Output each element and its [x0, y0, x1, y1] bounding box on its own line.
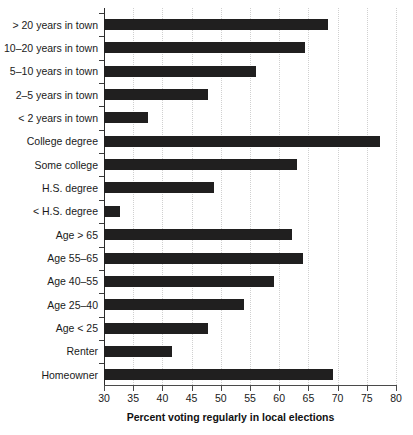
- bar: [104, 19, 328, 30]
- bar: [104, 276, 274, 287]
- x-axis-tick: [192, 386, 193, 391]
- category-label: Age 40–55: [0, 276, 98, 287]
- y-axis-tick: [99, 363, 104, 364]
- category-label: College degree: [0, 136, 98, 147]
- bars-layer: [104, 8, 396, 385]
- category-label: Some college: [0, 160, 98, 171]
- x-axis-tick: [221, 386, 222, 391]
- bar: [104, 206, 120, 217]
- y-axis-tick: [99, 293, 104, 294]
- y-axis-tick: [99, 130, 104, 131]
- x-axis-tick-label: 30: [89, 392, 119, 404]
- category-label: Age 25–40: [0, 300, 98, 311]
- category-axis-labels: > 20 years in town10–20 years in town5–1…: [0, 8, 98, 385]
- category-label: 5–10 years in town: [0, 66, 98, 77]
- bar: [104, 229, 292, 240]
- x-axis-title: Percent voting regularly in local electi…: [0, 411, 413, 423]
- y-axis-tick: [99, 317, 104, 318]
- x-axis-tick-label: 75: [352, 392, 382, 404]
- category-label: < H.S. degree: [0, 206, 98, 217]
- bar: [104, 42, 305, 53]
- bar: [104, 346, 172, 357]
- y-axis-tick: [99, 106, 104, 107]
- category-label: Age 55–65: [0, 253, 98, 264]
- x-axis-tick: [396, 386, 397, 391]
- gridline: [396, 8, 398, 385]
- x-axis-tick: [308, 386, 309, 391]
- x-axis-tick: [367, 386, 368, 391]
- category-label: H.S. degree: [0, 183, 98, 194]
- category-label: 2–5 years in town: [0, 90, 98, 101]
- x-axis-tick: [133, 386, 134, 391]
- x-axis-tick: [104, 386, 105, 391]
- y-axis-tick: [99, 340, 104, 341]
- y-axis-tick: [99, 83, 104, 84]
- category-label: Age > 65: [0, 230, 98, 241]
- category-label: Age < 25: [0, 323, 98, 334]
- bar: [104, 136, 380, 147]
- bar: [104, 66, 256, 77]
- category-label: Renter: [0, 346, 98, 357]
- x-axis-tick-label: 65: [293, 392, 323, 404]
- x-axis-tick: [250, 386, 251, 391]
- plot-area: [104, 8, 396, 385]
- y-axis-tick: [99, 200, 104, 201]
- bar: [104, 253, 303, 264]
- y-axis-tick: [99, 247, 104, 248]
- x-axis-tick-label: 35: [118, 392, 148, 404]
- x-axis-tick-label: 80: [381, 392, 411, 404]
- x-axis-tick: [338, 386, 339, 391]
- x-axis-tick: [279, 386, 280, 391]
- x-axis-tick-label: 60: [264, 392, 294, 404]
- y-axis-tick: [99, 36, 104, 37]
- y-axis-tick: [99, 223, 104, 224]
- x-axis-tick-label: 70: [323, 392, 353, 404]
- bar: [104, 89, 208, 100]
- x-axis-tick-label: 50: [206, 392, 236, 404]
- x-axis-tick-label: 55: [235, 392, 265, 404]
- x-axis-tick: [162, 386, 163, 391]
- bar: [104, 182, 214, 193]
- y-axis-tick: [99, 13, 104, 14]
- category-label: > 20 years in town: [0, 20, 98, 31]
- bar: [104, 369, 333, 380]
- category-label: Homeowner: [0, 370, 98, 381]
- category-label: < 2 years in town: [0, 113, 98, 124]
- x-axis-tick-label: 40: [147, 392, 177, 404]
- bar: [104, 112, 148, 123]
- y-axis-tick: [99, 60, 104, 61]
- y-axis-tick: [99, 270, 104, 271]
- bar: [104, 299, 244, 310]
- y-axis-tick: [99, 153, 104, 154]
- bar-chart: > 20 years in town10–20 years in town5–1…: [0, 0, 413, 435]
- x-axis-tick-label: 45: [177, 392, 207, 404]
- category-label: 10–20 years in town: [0, 43, 98, 54]
- bar: [104, 323, 208, 334]
- y-axis-tick: [99, 176, 104, 177]
- bar: [104, 159, 297, 170]
